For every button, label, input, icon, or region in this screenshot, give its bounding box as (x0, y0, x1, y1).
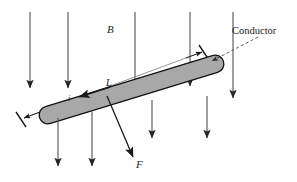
current-label: i (68, 95, 70, 103)
conductor-label: Conductor (232, 26, 276, 37)
force-arrow (107, 96, 133, 157)
length-label: L (106, 78, 112, 88)
conductor-rod-fill (48, 64, 215, 115)
length-arrow-right (186, 52, 202, 58)
force-label: F (136, 159, 143, 170)
length-tick-left (16, 112, 26, 127)
conductor-rod[interactable] (48, 64, 215, 115)
magnetic-field-label: B (107, 24, 114, 35)
conductor-leader-dashed (212, 37, 258, 61)
conductor-leader-line (212, 37, 258, 61)
length-arrow-left (24, 112, 40, 118)
physics-diagram-figure: B L i F Conductor (0, 0, 297, 182)
force-arrow-line (107, 96, 133, 157)
